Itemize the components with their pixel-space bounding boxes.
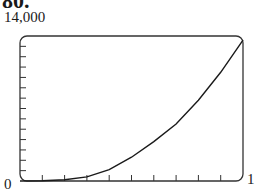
plot-area [0, 0, 255, 193]
data-curve [20, 40, 243, 181]
plot-frame [20, 36, 243, 181]
axis-ticks [20, 46, 221, 181]
